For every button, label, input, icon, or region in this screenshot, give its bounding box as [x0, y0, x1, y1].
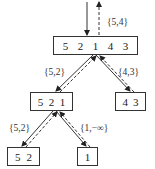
- edge-label-input: {5,4}: [107, 17, 128, 27]
- node-value: 4: [108, 40, 114, 52]
- edges-layer: [0, 0, 155, 169]
- node-value: 5: [15, 151, 21, 163]
- edge-label-root-midleft: {5,2}: [44, 67, 65, 77]
- edge-root-midleft-up: [60, 56, 96, 92]
- node-value: 5: [63, 40, 69, 52]
- edge-label-midleft-bottomleft: {5,2}: [9, 123, 30, 133]
- node-value: 2: [49, 96, 55, 108]
- node-value: 2: [78, 40, 84, 52]
- node-value: 1: [60, 96, 66, 108]
- node-value: 3: [123, 40, 129, 52]
- node-bottom-right: 1: [77, 147, 98, 166]
- edge-label-midleft-bottomright: {1,−∞}: [80, 123, 108, 133]
- node-mid-right: 4 3: [115, 92, 146, 111]
- node-value: 5: [38, 96, 44, 108]
- edge-midleft-bottomleft-up: [26, 112, 57, 147]
- node-root: 5 2 1 4 3: [53, 36, 138, 55]
- node-value: 3: [133, 96, 139, 108]
- edge-label-root-midright: {4,3}: [118, 67, 139, 77]
- node-mid-left: 5 2 1: [30, 92, 73, 111]
- node-value: 1: [85, 151, 91, 163]
- node-bottom-left: 5 2: [7, 147, 40, 166]
- node-value: 1: [93, 40, 99, 52]
- node-value: 2: [27, 151, 33, 163]
- node-value: 4: [123, 96, 129, 108]
